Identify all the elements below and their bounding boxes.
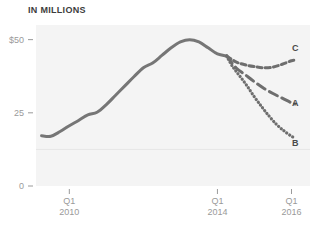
x-axis-ticks: Q12010Q12014Q12016 <box>59 189 301 217</box>
y-axis-ticks: $50250 <box>9 35 33 191</box>
y-tick-label: 25 <box>14 108 24 118</box>
x-tick-label-year: 2016 <box>281 207 301 217</box>
chart-canvas: $50250 Q12010Q12014Q12016 CAB <box>0 0 334 228</box>
x-tick-label-quarter: Q1 <box>211 196 223 206</box>
series-label-b: B <box>292 138 299 148</box>
series-label-c: C <box>292 43 299 53</box>
series-label-a: A <box>292 98 299 108</box>
x-tick-label-year: 2010 <box>59 207 79 217</box>
plot-area-background <box>36 25 310 186</box>
y-tick-label: $50 <box>9 35 24 45</box>
x-tick-label-quarter: Q1 <box>285 196 297 206</box>
x-tick-label-year: 2014 <box>207 207 227 217</box>
line-chart: IN MILLIONS $50250 Q12010Q12014Q12016 CA… <box>0 0 334 228</box>
x-tick-label-quarter: Q1 <box>63 196 75 206</box>
y-tick-label: 0 <box>19 181 24 191</box>
